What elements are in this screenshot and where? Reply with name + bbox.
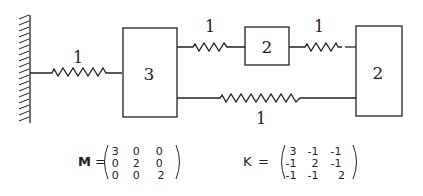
svg-text:3 -1 -1 -1: 3 -1 -1 -1 2 -1 -1 -1 2	[286, 145, 345, 182]
matrix-name: K	[243, 154, 252, 169]
spring-m1-m3	[177, 94, 356, 102]
left-paren	[282, 145, 286, 179]
spring-label: 1	[314, 17, 324, 36]
spring-label: 1	[73, 48, 83, 67]
mass-label: 2	[262, 37, 273, 57]
spring-label: 1	[205, 17, 215, 36]
right-paren	[176, 145, 180, 179]
right-paren	[353, 145, 357, 179]
equals-sign: =	[258, 154, 269, 169]
fixed-wall	[19, 15, 30, 123]
mass-label: 3	[144, 64, 155, 84]
spring-m1-m2	[177, 43, 245, 51]
spring-label: 1	[256, 109, 266, 128]
svg-text:3 0 0 0: 3 0 0 0 2 0 0 0 2	[112, 145, 167, 182]
stiffness-matrix: K = 3 -1 -1 -1 2 -1 -1 -1 2	[243, 145, 357, 182]
matrix-name: M	[78, 154, 91, 169]
mass-matrix: M = 3 0 0 0 2 0 0 0 2	[78, 145, 180, 182]
mass-spring-diagram: 1 3 1 2 1 2 1 M = 3 0 0 0 2	[0, 0, 423, 196]
spring-m2-m3	[289, 43, 356, 51]
spring-wall-m1	[30, 68, 122, 76]
mass-label: 2	[373, 63, 384, 83]
